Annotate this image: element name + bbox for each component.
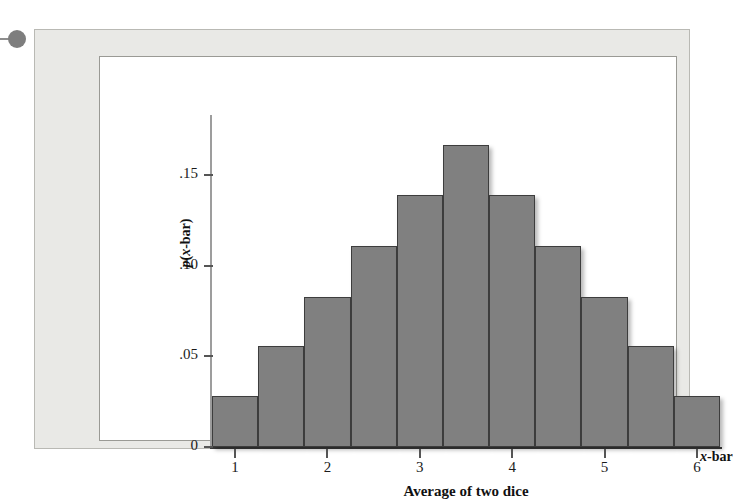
x-axis-tick-label: 4 [499,459,525,476]
y-axis-tick [204,355,213,357]
y-axis-title: p(x-bar) [178,183,194,303]
x-axis-tick [234,449,236,458]
figure-plate: 0.05.10.15 123456 p(x-bar) Average of tw… [99,56,677,441]
histogram-bar [212,396,258,447]
histogram-bar [581,297,627,447]
histogram-bar [397,195,443,447]
histogram-bar [489,195,535,447]
x-axis-tick [604,449,606,458]
histogram-bar [258,346,304,447]
y-axis-tick-label: .05 [152,346,198,363]
y-axis-tick-label: 0 [152,437,198,454]
x-axis-tick [511,449,513,458]
x-axis-tick-label: 5 [592,459,618,476]
histogram-bar [535,246,581,447]
y-axis-tick [204,174,213,176]
x-axis-tick-label: 3 [407,459,433,476]
x-axis-title: Average of two dice [210,483,722,500]
x-axis-tick [696,449,698,458]
bullet-dot-icon [8,30,26,48]
x-axis-line [210,447,722,449]
histogram-bar [443,145,489,447]
x-axis-variable-name: x-bar [700,449,733,465]
y-axis-tick [204,446,213,448]
figure-frame: 0.05.10.15 123456 p(x-bar) Average of tw… [34,29,690,449]
y-axis-tick-label: .15 [152,165,198,182]
histogram-bar [351,246,397,447]
histogram-bar [674,396,720,447]
x-axis-tick-label: 2 [314,459,340,476]
x-axis-tick [326,449,328,458]
decorative-bullet [0,28,34,50]
histogram-bar [628,346,674,447]
histogram-bar [304,297,350,447]
x-axis-tick [419,449,421,458]
x-axis-tick-label: 1 [222,459,248,476]
y-axis-tick [204,265,213,267]
